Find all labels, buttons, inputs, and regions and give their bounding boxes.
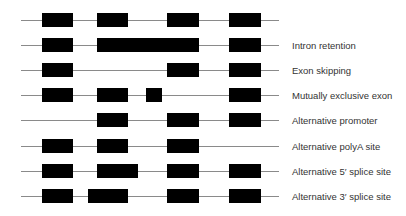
exon-block [97, 139, 128, 153]
exon-block [167, 13, 199, 27]
exon-block [146, 88, 162, 102]
exon-block [97, 164, 138, 178]
exon-block [42, 164, 73, 178]
row-label: Alternative polyA site [292, 139, 380, 154]
splicing-row-1 [0, 13, 406, 29]
row-label: Alternative promoter [292, 113, 378, 128]
row-label: Alternative 3′ splice site [292, 189, 391, 204]
splicing-row-6: Alternative polyA site [0, 139, 406, 155]
exon-block [229, 13, 261, 27]
row-label: Alternative 5′ splice site [292, 164, 391, 179]
exon-block [97, 88, 128, 102]
exon-block [229, 63, 261, 77]
exon-block [42, 38, 73, 52]
row-label: Intron retention [292, 38, 356, 53]
splicing-row-8: Alternative 3′ splice site [0, 189, 406, 205]
exon-block [229, 113, 261, 127]
exon-block [97, 13, 128, 27]
splicing-row-3: Exon skipping [0, 63, 406, 79]
splicing-row-5: Alternative promoter [0, 113, 406, 129]
row-label: Mutually exclusive exon [292, 88, 392, 103]
splicing-row-7: Alternative 5′ splice site [0, 164, 406, 180]
splicing-row-4: Mutually exclusive exon [0, 88, 406, 104]
exon-block [229, 164, 261, 178]
splicing-row-2: Intron retention [0, 38, 406, 54]
exon-block [167, 113, 199, 127]
exon-block [42, 139, 73, 153]
exon-block [167, 189, 199, 203]
exon-block [229, 88, 261, 102]
exon-block [229, 38, 261, 52]
exon-block [42, 63, 73, 77]
exon-block [42, 13, 73, 27]
exon-block [42, 88, 73, 102]
exon-block [167, 139, 199, 153]
exon-block [97, 38, 199, 52]
row-label: Exon skipping [292, 63, 351, 78]
exon-block [167, 164, 199, 178]
exon-block [167, 63, 199, 77]
exon-block [88, 189, 128, 203]
exon-block [97, 113, 128, 127]
exon-block [42, 189, 73, 203]
exon-block [229, 189, 261, 203]
